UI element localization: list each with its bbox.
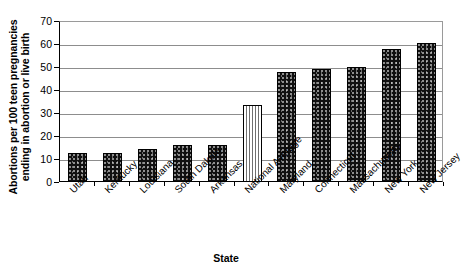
y-axis-tick — [54, 159, 59, 160]
bar — [312, 69, 331, 182]
y-axis-tick-label: 0 — [12, 177, 52, 188]
x-axis-tick — [268, 182, 269, 186]
bar — [277, 72, 296, 182]
y-axis-tick — [54, 182, 59, 183]
y-axis-tick-label: 30 — [12, 108, 52, 119]
y-axis-tick — [54, 90, 59, 91]
y-axis-tick — [54, 113, 59, 114]
x-axis-tick — [443, 182, 444, 186]
x-axis-tick — [94, 182, 95, 186]
y-axis-tick-label: 70 — [12, 16, 52, 27]
bar — [417, 43, 436, 182]
y-axis-tick-label: 60 — [12, 39, 52, 50]
y-axis-tick — [54, 136, 59, 137]
y-axis-tick-label: 50 — [12, 62, 52, 73]
x-axis-title: State — [0, 252, 452, 264]
y-axis-tick-label: 10 — [12, 154, 52, 165]
y-axis-tick-label: 20 — [12, 131, 52, 142]
x-axis-tick — [338, 182, 339, 186]
x-axis-tick — [129, 182, 130, 186]
x-axis-tick — [373, 182, 374, 186]
y-axis-tick — [54, 44, 59, 45]
y-axis-tick — [54, 67, 59, 68]
x-axis-tick — [303, 182, 304, 186]
x-axis-tick — [234, 182, 235, 186]
x-axis-tick — [164, 182, 165, 186]
y-axis-tick — [54, 21, 59, 22]
x-axis-tick — [199, 182, 200, 186]
x-axis-tick — [408, 182, 409, 186]
y-axis-tick-label: 40 — [12, 85, 52, 96]
